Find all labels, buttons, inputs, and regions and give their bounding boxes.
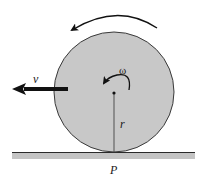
radius-label: r (120, 117, 125, 131)
contact-point-label: P (109, 163, 118, 177)
diagram-svg: v ω r P (0, 0, 202, 179)
ground-surface (12, 152, 195, 159)
angular-velocity-label: ω (119, 64, 126, 76)
rotation-direction-arrow-icon (72, 15, 157, 30)
center-point (112, 91, 115, 94)
velocity-label: v (33, 72, 39, 86)
rolling-disk-diagram: v ω r P (0, 0, 202, 179)
